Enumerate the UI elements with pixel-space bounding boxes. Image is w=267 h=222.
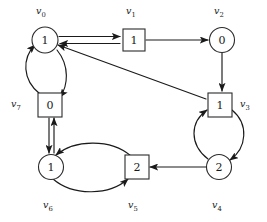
- vertex-label-v6-sub: 6: [48, 205, 52, 213]
- node-layer: 1 1 0 1 2 2: [32, 27, 235, 180]
- node-v1[interactable]: 1: [123, 29, 145, 51]
- graph-figure: 1 1 0 1 2 2: [0, 0, 267, 222]
- vertex-label-v1: v1: [126, 6, 136, 19]
- vertex-label-v3-sub: 3: [245, 104, 249, 112]
- vertex-label-v5-sub: 5: [133, 205, 137, 213]
- node-v6[interactable]: 1: [39, 155, 64, 180]
- vertex-label-v2-sub: 2: [219, 11, 223, 19]
- node-v3-value: 1: [217, 99, 224, 112]
- vertex-label-v3: v3: [240, 99, 250, 112]
- node-v1-value: 1: [131, 34, 138, 47]
- node-v3[interactable]: 1: [208, 93, 232, 117]
- vertex-label-v6: v6: [43, 200, 53, 213]
- node-v2[interactable]: 0: [210, 28, 235, 53]
- vertex-label-v0-sub: 0: [41, 11, 45, 19]
- vertex-label-v1-sub: 1: [131, 11, 135, 19]
- edge-v3-to-v0: [58, 45, 206, 99]
- vertex-label-v7-sub: 7: [16, 104, 20, 112]
- node-v7[interactable]: 0: [38, 93, 62, 117]
- vertex-label-v0: v0: [36, 6, 46, 19]
- node-v6-value: 1: [48, 161, 55, 174]
- node-v2-value: 0: [219, 34, 226, 47]
- vertex-label-v7: v7: [11, 99, 21, 112]
- node-v5[interactable]: 2: [125, 155, 149, 179]
- vertex-label-v5: v5: [128, 200, 138, 213]
- edge-v5-to-v6: [56, 143, 131, 156]
- node-v5-value: 2: [134, 161, 141, 174]
- node-v0[interactable]: 1: [32, 27, 58, 53]
- edge-v7-to-v0: [26, 45, 40, 94]
- vertex-label-v4-sub: 4: [217, 205, 221, 213]
- node-v7-value: 0: [47, 99, 54, 112]
- edge-v6-to-v5: [53, 179, 128, 192]
- vertex-label-v2: v2: [214, 6, 224, 19]
- node-v4-value: 2: [216, 161, 223, 174]
- vertex-label-v4: v4: [212, 200, 222, 213]
- edge-v0-to-v7: [57, 50, 66, 97]
- graph-canvas: 1 1 0 1 2 2: [0, 0, 267, 222]
- node-v0-value: 1: [42, 34, 49, 47]
- edge-v4-to-v3: [194, 110, 208, 159]
- node-v4[interactable]: 2: [207, 155, 232, 180]
